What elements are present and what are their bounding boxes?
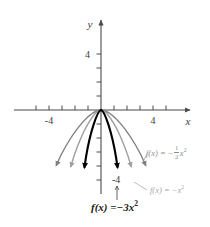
label-3x2-variable: −3x — [117, 201, 135, 213]
parabola-graph-figure: -4 4 x 4 -4 y — [0, 0, 210, 227]
label-x2-exponent: 2 — [181, 184, 184, 190]
y-axis-name: y — [87, 18, 93, 30]
label-x2-variable: −x — [172, 185, 182, 195]
label-3x2-exponent: 2 — [134, 199, 138, 208]
x-tick-label-pos4: 4 — [151, 115, 156, 126]
label-half-numerator: 1 — [174, 145, 179, 152]
x-axis-name: x — [185, 115, 191, 127]
annotation-label-neg-x-squared: f(x) = −x2 — [150, 186, 184, 195]
x-tick-label-neg4: -4 — [45, 115, 53, 126]
label-half-minus: − — [168, 148, 174, 158]
label-half-fraction: 12 — [174, 145, 179, 160]
label-half-fx: f(x) — [146, 148, 158, 158]
curve-half-left-branch — [57, 110, 102, 165]
annotation-label-neg-3x-squared: f(x) =−3x2 — [91, 202, 138, 213]
label-3x2-fx: f(x) — [91, 201, 108, 213]
label-half-equals: = — [160, 148, 166, 158]
x-axis: -4 4 x — [14, 106, 191, 128]
y-tick-label-pos4: 4 — [85, 49, 90, 60]
label-x2-fx: f(x) — [150, 185, 162, 195]
annotation-label-half-x-squared: f(x) = −12x2 — [146, 145, 187, 160]
label-x2-equals: = — [164, 185, 170, 195]
label-half-exponent: 2 — [184, 147, 187, 153]
leader-line-x2 — [134, 182, 147, 190]
y-tick-label-neg4: -4 — [112, 174, 120, 185]
curve-half-right-branch — [101, 110, 146, 165]
y-axis: 4 -4 y — [85, 18, 120, 194]
label-half-denominator: 2 — [174, 154, 179, 161]
